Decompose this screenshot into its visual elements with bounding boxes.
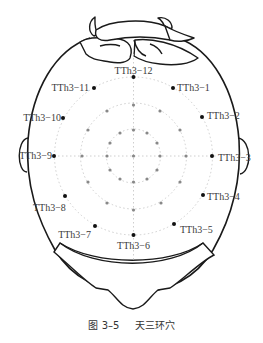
label-tth3-4: TTh3−4 [207, 191, 240, 202]
acupoint-diagram: TTh3−12 TTh3−1 TTh3−2 TTh3−3 TTh3−4 TTh3… [0, 0, 263, 343]
label-tth3-2: TTh3−2 [207, 110, 240, 121]
label-tth3-6: TTh3−6 [117, 240, 150, 251]
acupoint-labels: TTh3−12 TTh3−1 TTh3−2 TTh3−3 TTh3−4 TTh3… [19, 65, 251, 251]
hair-tuft [80, 17, 198, 65]
label-tth3-11: TTh3−11 [52, 82, 90, 93]
acupoint-tth3-4[interactable] [201, 193, 205, 197]
acupoint-tth3-9[interactable] [52, 154, 56, 158]
acupoint-tth3-11[interactable] [92, 86, 96, 90]
figure-caption: 图 3–5 天三环穴 [0, 317, 263, 332]
head-top-view-svg: TTh3−12 TTh3−1 TTh3−2 TTh3−3 TTh3−4 TTh3… [0, 0, 263, 343]
acupoint-tth3-10[interactable] [61, 116, 65, 120]
label-tth3-3: TTh3−3 [218, 152, 251, 163]
acupoint-tth3-1[interactable] [171, 86, 175, 90]
label-tth3-8: TTh3−8 [33, 202, 66, 213]
label-tth3-7: TTh3−7 [58, 229, 91, 240]
label-tth3-10: TTh3−10 [23, 112, 61, 123]
caption-title: 天三环穴 [135, 320, 175, 331]
acupoint-tth3-5[interactable] [172, 222, 176, 226]
acupoint-tth3-8[interactable] [63, 194, 67, 198]
acupoint-tth3-7[interactable] [93, 224, 97, 228]
caption-number: 图 3–5 [88, 320, 119, 331]
acupoint-tth3-2[interactable] [200, 115, 204, 119]
acupoint-tth3-3[interactable] [210, 154, 214, 158]
label-tth3-9: TTh3−9 [19, 150, 52, 161]
acupoint-tth3-6[interactable] [132, 233, 136, 237]
label-tth3-12: TTh3−12 [115, 65, 153, 76]
label-tth3-1: TTh3−1 [177, 82, 210, 93]
label-tth3-5: TTh3−5 [180, 224, 213, 235]
